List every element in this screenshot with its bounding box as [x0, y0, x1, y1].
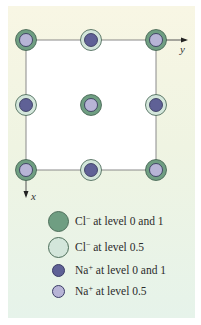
x-axis-arrow-icon	[24, 191, 29, 198]
lattice-site	[16, 95, 37, 116]
x-axis-label: x	[31, 190, 36, 202]
lattice-site	[16, 160, 37, 181]
legend-label: Na+ at level 0.5	[75, 285, 147, 297]
cl-level-0-1-swatch-icon	[48, 211, 69, 232]
na-ion-level-0-5-icon	[20, 164, 33, 177]
na-ion-level-0-1-icon	[20, 99, 33, 112]
lattice-site	[81, 95, 102, 116]
y-axis-arrow-icon	[181, 38, 188, 43]
na-ion-level-0-1-icon	[85, 34, 98, 47]
na-level-0-5-swatch-icon	[52, 285, 65, 298]
lattice-site	[81, 160, 102, 181]
legend-item-na-level-0-1: Na+ at level 0 and 1	[48, 261, 198, 279]
na-ion-level-0-5-icon	[150, 164, 163, 177]
na-ion-level-0-1-icon	[150, 99, 163, 112]
legend-label: Cl− at level 0 and 1	[75, 215, 164, 227]
legend-label: Cl− at level 0.5	[75, 241, 144, 253]
na-ion-level-0-5-icon	[150, 34, 163, 47]
legend-item-cl-level-0-5: Cl− at level 0.5	[48, 236, 198, 258]
cl-level-0-5-swatch-icon	[48, 237, 69, 258]
lattice-site	[146, 160, 167, 181]
y-axis-label: y	[180, 43, 185, 55]
nacl-lattice-diagram: y x Cl− at level 0 and 1 Cl− at level 0.…	[0, 0, 201, 325]
lattice-site	[146, 95, 167, 116]
lattice-site	[146, 30, 167, 51]
lattice-site	[81, 30, 102, 51]
na-ion-level-0-1-icon	[85, 164, 98, 177]
legend-item-cl-level-0-1: Cl− at level 0 and 1	[48, 210, 198, 232]
legend: Cl− at level 0 and 1 Cl− at level 0.5 Na…	[48, 210, 198, 303]
legend-item-na-level-0-5: Na+ at level 0.5	[48, 282, 198, 300]
na-ion-level-0-5-icon	[20, 34, 33, 47]
na-ion-level-0-5-icon	[85, 99, 98, 112]
lattice-site	[16, 30, 37, 51]
legend-label: Na+ at level 0 and 1	[75, 264, 166, 276]
na-level-0-1-swatch-icon	[52, 264, 65, 277]
